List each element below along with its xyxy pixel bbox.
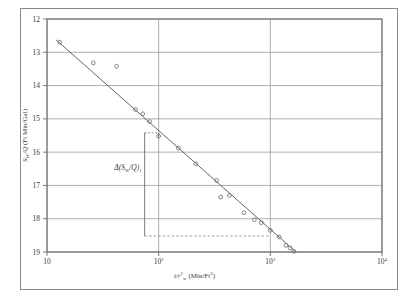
- figure-container: 121314151617181910102103104Δ(SW/Q)1SW/Q …: [0, 0, 414, 306]
- data-point-marker: [219, 195, 223, 199]
- ytick-label-14: 14: [33, 81, 41, 90]
- xtick-label-1: 102: [154, 257, 165, 267]
- data-point-marker: [228, 194, 232, 198]
- chart-svg: 121314151617181910102103104Δ(SW/Q)1SW/Q …: [0, 0, 414, 306]
- fitted-trend-line: [56, 40, 296, 252]
- data-point-marker: [242, 211, 246, 215]
- ytick-label-12: 12: [33, 15, 41, 24]
- delta-annotation-label: Δ(SW/Q)1: [113, 163, 141, 173]
- ytick-label-19: 19: [33, 248, 41, 257]
- xtick-label-3: 104: [377, 257, 388, 267]
- x-axis-title: t/r2w (Min/Ft2): [174, 271, 216, 281]
- plot-frame: [47, 19, 382, 252]
- ytick-label-13: 13: [33, 48, 41, 57]
- chart-plot-area: 121314151617181910102103104Δ(SW/Q)1SW/Q …: [0, 0, 414, 306]
- xtick-label-2: 103: [265, 257, 276, 267]
- data-point-marker: [91, 61, 95, 65]
- xtick-label-0: 10: [43, 257, 51, 266]
- data-point-marker: [115, 64, 119, 68]
- ytick-label-16: 16: [33, 148, 41, 157]
- ytick-label-18: 18: [33, 214, 41, 223]
- ytick-label-15: 15: [33, 114, 41, 123]
- data-point-marker: [141, 112, 145, 116]
- ytick-label-17: 17: [33, 181, 41, 190]
- data-point-marker: [284, 243, 288, 247]
- y-axis-title: SW/Q (Ft Min/Gal): [21, 108, 30, 162]
